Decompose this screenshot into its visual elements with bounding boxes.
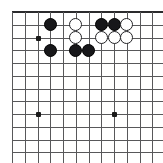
grid-line-vertical [152, 12, 153, 163]
go-board-diagram [0, 0, 163, 163]
go-board-surface[interactable] [0, 0, 163, 163]
grid-line-vertical [38, 12, 39, 163]
black-stone[interactable] [44, 18, 57, 31]
white-stone[interactable] [120, 18, 133, 31]
black-stone[interactable] [44, 44, 57, 57]
grid-line-vertical [89, 12, 90, 163]
white-stone[interactable] [120, 31, 133, 44]
white-stone[interactable] [108, 31, 121, 44]
black-stone[interactable] [69, 44, 82, 57]
grid-line-vertical [140, 12, 141, 163]
star-point [112, 112, 117, 117]
grid-line-vertical [50, 12, 51, 163]
black-stone[interactable] [95, 18, 108, 31]
black-stone[interactable] [108, 18, 121, 31]
white-stone[interactable] [69, 18, 82, 31]
grid-line-vertical [12, 12, 13, 163]
grid-line-vertical [25, 12, 26, 163]
grid-line-vertical [63, 12, 64, 163]
white-stone[interactable] [69, 31, 82, 44]
black-stone[interactable] [82, 44, 95, 57]
white-stone[interactable] [95, 31, 108, 44]
star-point [36, 36, 41, 41]
star-point [36, 112, 41, 117]
